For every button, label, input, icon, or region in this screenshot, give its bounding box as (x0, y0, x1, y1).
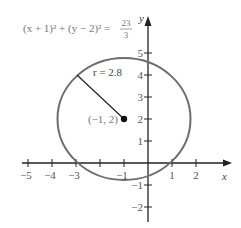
y-tick-labels: 5 4 3 2 1 −1 −2 (131, 47, 143, 213)
x-tick-label: −3 (68, 169, 80, 181)
circle-plot: x y −5 −4 −3 −1 1 2 5 4 3 2 1 −1 −2 r = … (0, 0, 241, 228)
x-axis-arrow-icon (223, 160, 232, 167)
equation-numerator: 23 (122, 18, 132, 28)
y-tick-label: 5 (138, 47, 144, 59)
center-label: (−1, 2) (88, 113, 118, 126)
radius-label: r = 2.8 (93, 66, 123, 78)
circle-equation: (x + 1)² + (y − 2)² = 23 3 (23, 18, 132, 40)
y-axis-label: y (138, 12, 144, 24)
y-axis (144, 16, 152, 222)
x-axis-label: x (221, 170, 227, 182)
equation-lhs: (x + 1)² + (y − 2)² = (23, 22, 110, 35)
x-tick-label: −1 (116, 169, 128, 181)
y-tick-label: 1 (138, 135, 144, 147)
y-tick-label: 3 (138, 91, 144, 103)
y-tick-label: −1 (131, 179, 143, 191)
equation-denominator: 3 (124, 30, 129, 40)
y-tick-label: −2 (131, 201, 143, 213)
center-point (121, 116, 127, 122)
x-axis (22, 159, 232, 167)
y-tick-label: 2 (138, 113, 144, 125)
y-tick-label: 4 (138, 69, 144, 81)
x-tick-label: −4 (44, 169, 56, 181)
x-tick-label: 1 (169, 169, 175, 181)
x-tick-label: 2 (193, 169, 199, 181)
y-axis-arrow-icon (145, 16, 152, 26)
x-tick-label: −5 (20, 169, 32, 181)
